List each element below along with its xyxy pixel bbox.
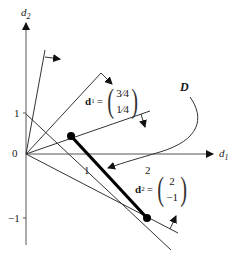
vector-d1-label: d1 = ( 3⁄41⁄4 ) [85,84,140,118]
region-d-label: D [180,81,189,93]
constraint-ray-steep [26,50,60,154]
diagram-canvas: d2 d1 0 1 −1 1 2 D d1 = ( 3⁄41⁄4 ) d2 = … [0,0,242,257]
vector-d2-label: d2 = ( 2−1 ) [135,172,189,206]
extreme-point-2 [143,214,151,222]
y-tick-label-1: 1 [14,108,20,119]
extreme-point-1 [67,132,75,140]
diagram-svg [0,0,242,257]
x-tick-label-1: 1 [84,165,90,176]
d2-axis-label: d2 [21,7,31,21]
origin-label: 0 [12,148,18,159]
y-tick-label-neg1: −1 [8,213,20,224]
d1-axis-label: d1 [219,148,229,162]
